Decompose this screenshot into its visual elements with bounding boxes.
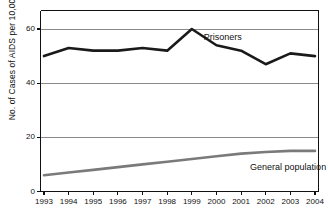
series-line-prisoners xyxy=(44,29,315,64)
aids-cases-line-chart: No. of Cases of AIDS per 10,000 0 20 40 … xyxy=(0,0,328,211)
y-tick-label-0: 0 xyxy=(13,188,35,196)
y-tick-label-60: 60 xyxy=(13,25,35,33)
general-population-series-label: General population xyxy=(250,162,326,172)
prisoners-series-label: Prisoners xyxy=(204,32,242,42)
y-tick-label-40: 40 xyxy=(13,79,35,87)
y-tick-label-20: 20 xyxy=(13,133,35,141)
x-tick-label-2004: 2004 xyxy=(298,198,328,206)
y-axis-title: No. of Cases of AIDS per 10,000 xyxy=(7,0,17,132)
plot-area xyxy=(0,0,328,211)
